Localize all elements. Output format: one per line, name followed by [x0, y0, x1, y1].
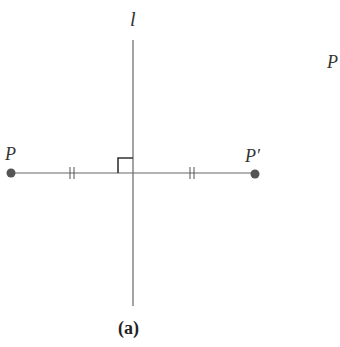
line-label-l: l: [130, 8, 136, 30]
point-p-prime: [251, 170, 260, 179]
diagram-canvas: l P P′ P (a): [0, 0, 340, 347]
figure-caption: (a): [118, 318, 139, 339]
point-p: [7, 169, 16, 178]
reflection-diagram: l P P′ P (a): [0, 0, 340, 347]
offscreen-label-p: P: [326, 52, 338, 72]
point-label-p: P: [4, 144, 16, 164]
right-angle-mark: [118, 158, 133, 173]
point-label-p-prime: P′: [244, 146, 261, 166]
